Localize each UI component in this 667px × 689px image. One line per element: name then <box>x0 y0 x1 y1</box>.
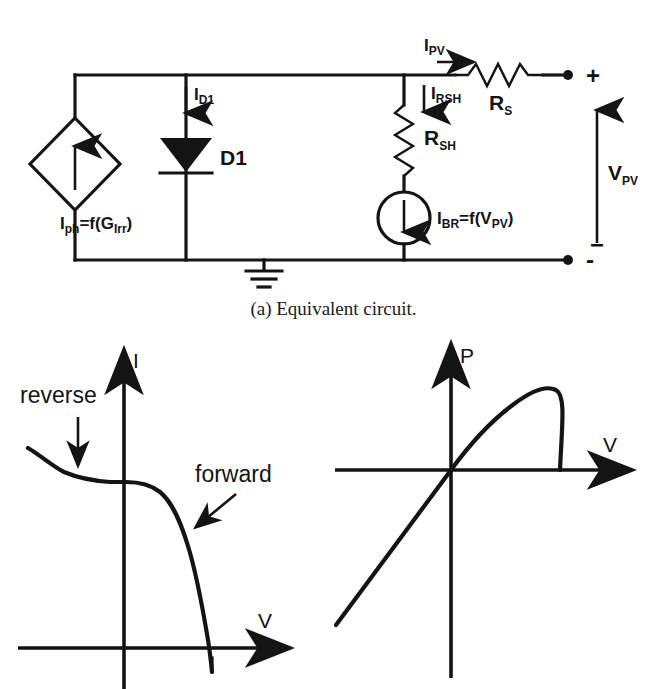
pv-y-axis-label: P <box>460 344 474 367</box>
iv-curve-plot: V I reverse forward <box>18 349 288 689</box>
iv-y-axis-label: I <box>133 349 139 372</box>
negative-terminal-dot <box>563 255 573 265</box>
series-resistor <box>455 64 566 86</box>
subfigure-a-caption: (a) Equivalent circuit. <box>0 298 667 320</box>
reverse-annotation-label: reverse <box>20 382 97 408</box>
iv-characteristic-curve <box>28 448 212 672</box>
voltage-minus-sign: − <box>590 231 604 258</box>
shunt-current-label: IRSH <box>431 84 461 106</box>
output-current-label: IPV <box>424 36 445 58</box>
diode-label: D1 <box>220 146 247 169</box>
ground-symbol <box>246 260 282 287</box>
forward-annotation-label: forward <box>195 461 272 487</box>
photocurrent-label: Iph=f(GIrr) <box>60 214 132 236</box>
output-voltage-label: VPV <box>608 161 638 188</box>
series-resistor-label: RS <box>489 91 512 118</box>
figure-svg: Iph=f(GIrr) ID1 D1 <box>0 0 667 689</box>
diode-triangle-icon <box>160 138 212 172</box>
pv-curve-plot: V P <box>335 344 630 678</box>
iv-x-axis-label: V <box>258 609 272 632</box>
pv-x-axis-label: V <box>603 433 617 456</box>
positive-terminal-label: + <box>586 62 600 89</box>
diode-current-label: ID1 <box>194 85 214 107</box>
shunt-resistor-zigzag-icon <box>395 105 413 176</box>
breakdown-source-label: IBR=f(VPV) <box>437 209 513 231</box>
shunt-branch <box>378 75 430 260</box>
equivalent-circuit-diagram: Iph=f(GIrr) ID1 D1 <box>30 36 638 287</box>
positive-terminal-dot <box>563 70 573 80</box>
photocurrent-source <box>30 118 120 210</box>
series-resistor-zigzag-icon <box>455 64 543 86</box>
forward-annotation-arrow-icon <box>196 494 236 527</box>
figure-root: Iph=f(GIrr) ID1 D1 <box>0 0 667 689</box>
shunt-resistor-label: RSH <box>424 126 456 153</box>
